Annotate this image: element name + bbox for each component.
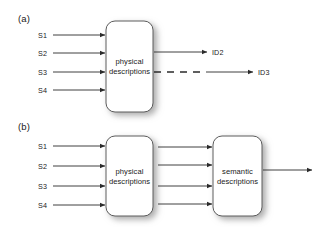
input-label-b-s4: S4 [38,201,47,210]
input-label-b-s3: S3 [38,182,47,191]
block-label-line1: physical [106,167,153,177]
input-label-a-s4: S4 [38,86,47,95]
input-label-b-s1: S1 [38,142,47,151]
input-label-b-s2: S2 [38,162,47,171]
block-label-line1: physical [106,57,153,67]
input-label-a-s2: S2 [38,49,47,58]
block-label-line2: descriptions [106,177,153,187]
output-label-id2: ID2 [212,48,224,57]
output-label-id3: ID3 [258,68,270,77]
block-label-line2: descriptions [213,177,262,187]
panel-label-a: (a) [18,13,30,24]
figure-canvas: (a) S1 S2 S3 S4 physical descriptions ID… [0,0,331,241]
panel-label-b: (b) [18,121,30,132]
block-label-line2: descriptions [106,67,153,77]
diagram-vector-layer [0,0,331,241]
input-label-a-s3: S3 [38,68,47,77]
block-label-line1: semantic [213,167,262,177]
block-label-b-physical-descriptions: physical descriptions [106,167,153,186]
input-label-a-s1: S1 [38,31,47,40]
block-label-b-semantic-descriptions: semantic descriptions [213,167,262,186]
block-label-a-physical-descriptions: physical descriptions [106,57,153,76]
